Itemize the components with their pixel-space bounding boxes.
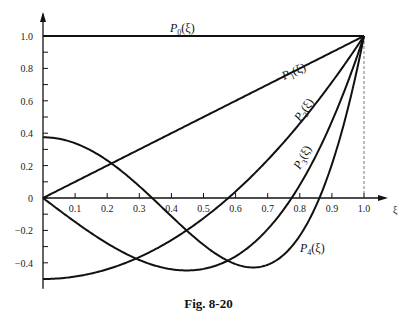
x-tick-label: 0.9 <box>326 203 339 214</box>
y-tick-label: 0.8 <box>21 63 34 74</box>
x-tick-label: 1.0 <box>358 203 371 214</box>
x-tick-label: 0.1 <box>69 203 82 214</box>
label-p0: P0(ξ) <box>169 21 195 37</box>
y-axis-arrow-icon <box>40 12 46 22</box>
y-tick-label: 0.2 <box>21 161 34 172</box>
x-tick-label: 0.6 <box>229 203 242 214</box>
y-tick-label: −0.4 <box>15 258 33 269</box>
curve-p1 <box>43 36 364 198</box>
x-tick-label: 0.5 <box>197 203 210 214</box>
x-tick-label: 0.2 <box>101 203 114 214</box>
y-tick-label: 0.4 <box>21 128 34 139</box>
y-tick-label: 0.6 <box>21 96 34 107</box>
x-axis-arrow-icon <box>378 195 388 201</box>
label-p4: P4(ξ) <box>299 241 325 257</box>
y-tick-label: 1.0 <box>21 31 34 42</box>
y-tick-label: −0.2 <box>15 225 33 236</box>
x-tick-label: 0.3 <box>133 203 146 214</box>
figure-caption: Fig. 8-20 <box>0 296 417 312</box>
label-p1: P1(ξ) <box>279 60 309 85</box>
x-tick-label: 0.7 <box>261 203 274 214</box>
curve-labels: P0(ξ)P1(ξ)P2(ξ)P3(ξ)P4(ξ) <box>169 21 325 257</box>
label-p2: P2(ξ) <box>290 95 318 125</box>
legendre-chart: ξ0.10.20.30.40.50.60.70.80.91.01.00.80.6… <box>0 0 417 324</box>
x-tick-label: 0.8 <box>294 203 307 214</box>
x-axis-label: ξ <box>393 204 398 216</box>
label-p3: P3(ξ) <box>290 143 316 173</box>
y-tick-label: 0 <box>28 193 33 204</box>
curve-p3 <box>43 36 364 270</box>
